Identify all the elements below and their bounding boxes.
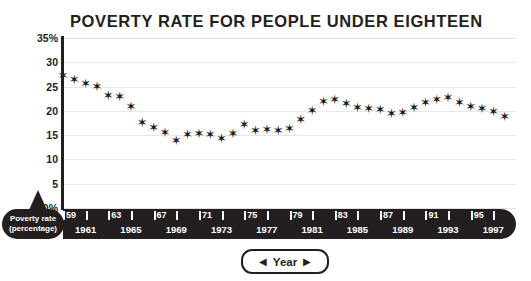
data-point-marker: ✶ [91,81,102,92]
data-point-marker: ✶ [375,104,386,115]
x-axis-tick [493,211,495,220]
data-point-marker: ✶ [193,128,204,139]
x-axis-year-label-short: 67 [157,210,167,220]
gridline [63,38,516,39]
gridline [63,159,516,160]
gridline [63,62,516,63]
x-axis-tick [131,211,133,220]
data-point-marker: ✶ [103,90,114,101]
data-point-marker: ✶ [227,128,238,139]
x-axis-tick [108,211,110,220]
y-axis-tick-label: 5 [24,178,58,190]
data-point-marker: ✶ [431,94,442,105]
data-point-marker: ✶ [261,124,272,135]
data-point-marker: ✶ [386,108,397,119]
poverty-rate-chart: POVERTY RATE FOR PEOPLE UNDER EIGHTEEN 3… [0,0,531,281]
data-point-marker: ✶ [216,133,227,144]
x-axis-tick [176,211,178,220]
x-axis-year-label-full: 1981 [302,224,323,235]
x-axis-tick [312,211,314,220]
x-axis-label: Year [273,256,297,268]
data-point-marker: ✶ [273,125,284,136]
data-point-marker: ✶ [363,103,374,114]
data-point-marker: ✶ [409,102,420,113]
next-year-arrow-icon[interactable]: ▶ [303,257,311,267]
y-axis-tick-label: 10 [24,153,58,165]
x-axis-year-label-full: 1969 [166,224,187,235]
y-axis-label-badge: Poverty rate (percentage) [2,209,64,239]
data-point-marker: ✶ [284,123,295,134]
data-point-marker: ✶ [69,74,80,85]
x-axis-year-label-short: 95 [474,210,484,220]
x-axis-year-label-full: 1977 [256,224,277,235]
data-point-marker: ✶ [454,97,465,108]
chart-title: POVERTY RATE FOR PEOPLE UNDER EIGHTEEN [70,12,520,31]
gridline [63,87,516,88]
prev-year-arrow-icon[interactable]: ◀ [259,257,267,267]
x-axis-year-label-short: 91 [428,210,438,220]
data-point-marker: ✶ [443,92,454,103]
data-point-marker: ✶ [114,91,125,102]
x-axis-year-label-short: 59 [66,210,76,220]
y-axis-tick-label: 35% [24,32,58,44]
x-axis-year-label-short: 71 [202,210,212,220]
data-point-marker: ✶ [250,125,261,136]
y-axis-label-line1: Poverty rate [10,214,56,224]
year-selector-badge[interactable]: ◀ Year ▶ [241,249,329,274]
data-point-marker: ✶ [477,103,488,114]
data-point-marker: ✶ [341,98,352,109]
x-axis-year-label-full: 1989 [392,224,413,235]
data-point-marker: ✶ [307,105,318,116]
x-axis-year-label-full: 1961 [75,224,96,235]
x-axis-tick [425,211,427,220]
x-axis-tick [154,211,156,220]
y-axis-pointer-triangle [29,190,47,210]
data-point-marker: ✶ [205,129,216,140]
x-axis-year-label-full: 1993 [437,224,458,235]
x-axis-tick [199,211,201,220]
data-point-marker: ✶ [499,111,510,122]
y-axis-tick-labels: 35%302520151050% [18,38,58,208]
data-point-marker: ✶ [488,106,499,117]
y-axis-tick-label: 20 [24,105,58,117]
plot-area: ✶✶✶✶✶✶✶✶✶✶✶✶✶✶✶✶✶✶✶✶✶✶✶✶✶✶✶✶✶✶✶✶✶✶✶✶✶✶✶✶ [63,38,516,208]
data-point-marker: ✶ [397,107,408,118]
data-point-marker: ✶ [148,122,159,133]
data-point-marker: ✶ [420,97,431,108]
gridline [63,184,516,185]
y-axis-label-line2: (percentage) [9,224,57,234]
x-axis-year-label-short: 87 [383,210,393,220]
data-point-marker: ✶ [171,135,182,146]
x-axis-tick [380,211,382,220]
data-point-marker: ✶ [318,96,329,107]
y-axis-line [61,36,64,210]
x-axis-tick [357,211,359,220]
data-point-marker: ✶ [239,119,250,130]
x-axis-tick [290,211,292,220]
x-axis-year-label-short: 63 [111,210,121,220]
data-point-marker: ✶ [329,94,340,105]
x-axis-tick [86,211,88,220]
data-point-marker: ✶ [159,127,170,138]
x-axis-tick [244,211,246,220]
data-point-marker: ✶ [465,101,476,112]
x-axis-tick [403,211,405,220]
x-axis-year-label-full: 1973 [211,224,232,235]
x-axis-year-label-full: 1997 [483,224,504,235]
data-point-marker: ✶ [295,114,306,125]
x-axis-year-label-short: 83 [338,210,348,220]
x-axis-year-label-full: 1965 [120,224,141,235]
y-axis-tick-label: 30 [24,56,58,68]
data-point-marker: ✶ [137,117,148,128]
x-axis-tick [267,211,269,220]
x-axis-year-label-full: 1985 [347,224,368,235]
x-axis-tick [222,211,224,220]
y-axis-tick-label: 25 [24,81,58,93]
x-axis-band: 5963677175798387919519611965196919731977… [63,209,516,239]
data-point-marker: ✶ [125,101,136,112]
data-point-marker: ✶ [352,102,363,113]
x-axis-year-label-short: 75 [247,210,257,220]
y-axis-tick-label: 15 [24,129,58,141]
data-point-marker: ✶ [182,129,193,140]
x-axis-year-label-short: 79 [293,210,303,220]
